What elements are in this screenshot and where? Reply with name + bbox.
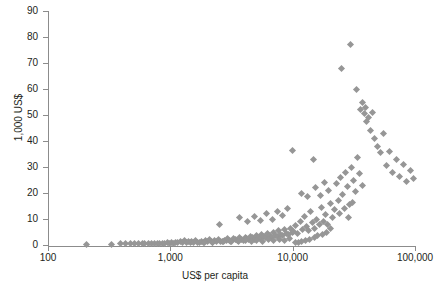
- y-tick-label: 20: [0, 188, 38, 198]
- data-point: [349, 199, 356, 206]
- data-point: [336, 210, 343, 217]
- data-point: [269, 215, 276, 222]
- data-point: [215, 221, 222, 228]
- y-tick-label: 10: [0, 214, 38, 224]
- y-tick-label: 70: [0, 58, 38, 68]
- data-point: [310, 156, 317, 163]
- data-point: [350, 176, 357, 183]
- data-point: [325, 187, 332, 194]
- data-point: [321, 179, 328, 186]
- data-point: [380, 130, 387, 137]
- data-point: [386, 148, 393, 155]
- data-point: [353, 85, 360, 92]
- x-axis-line: [48, 246, 415, 247]
- data-point: [356, 170, 363, 177]
- data-point: [377, 149, 384, 156]
- data-point: [244, 218, 251, 225]
- y-tick-label: 0: [0, 240, 38, 250]
- x-tick-mark: [48, 246, 49, 251]
- x-tick-label: 100: [8, 252, 88, 264]
- data-point: [257, 217, 264, 224]
- data-point: [348, 163, 355, 170]
- data-point: [362, 104, 369, 111]
- data-point: [83, 241, 90, 248]
- y-tick-label: 80: [0, 32, 38, 42]
- data-point: [337, 174, 344, 181]
- data-point: [393, 156, 400, 163]
- data-point: [383, 162, 390, 169]
- data-point: [345, 214, 352, 221]
- data-point: [326, 200, 333, 207]
- y-axis-label: 1,000 US$: [13, 78, 24, 158]
- data-point: [371, 135, 378, 142]
- data-point: [367, 127, 374, 134]
- data-point: [312, 184, 319, 191]
- data-point: [359, 182, 366, 189]
- chart-title: [0, 0, 430, 1]
- x-tick-label: 100,000: [375, 252, 438, 264]
- data-point: [344, 183, 351, 190]
- data-point: [338, 65, 345, 72]
- data-point: [396, 173, 403, 180]
- x-tick-label: 10,000: [253, 252, 333, 264]
- data-point: [410, 175, 417, 182]
- data-point: [341, 169, 348, 176]
- data-point: [352, 188, 359, 195]
- plot-area: [48, 11, 415, 245]
- y-tick-label: 30: [0, 162, 38, 172]
- y-tick-label: 90: [0, 6, 38, 16]
- x-tick-mark: [415, 246, 416, 251]
- data-point: [318, 204, 325, 211]
- data-point: [304, 193, 311, 200]
- data-point: [236, 214, 243, 221]
- data-point: [347, 41, 354, 48]
- data-point: [279, 212, 286, 219]
- x-axis-label: US$ per capita: [0, 270, 430, 281]
- data-point: [263, 210, 270, 217]
- data-point: [407, 167, 414, 174]
- data-point: [329, 214, 336, 221]
- x-tick-mark: [170, 246, 171, 251]
- data-point: [339, 191, 346, 198]
- data-point: [400, 161, 407, 168]
- data-point: [289, 147, 296, 154]
- data-point: [389, 169, 396, 176]
- data-point: [317, 192, 324, 199]
- data-point: [335, 197, 342, 204]
- data-point: [284, 205, 291, 212]
- data-point: [333, 180, 340, 187]
- x-tick-label: 1,000: [130, 252, 210, 264]
- data-point: [307, 208, 314, 215]
- data-point: [354, 154, 361, 161]
- x-tick-mark: [293, 246, 294, 251]
- data-point: [108, 241, 115, 248]
